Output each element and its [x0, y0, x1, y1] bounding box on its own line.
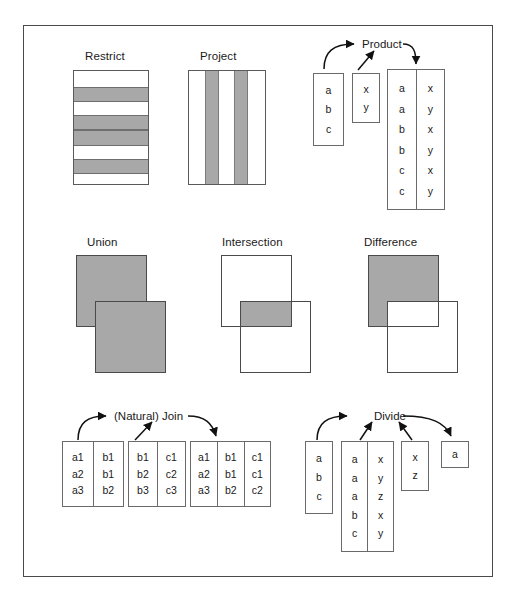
cell: b1	[137, 452, 149, 463]
restrict-caption: Restrict	[85, 50, 125, 62]
cell: b1	[102, 452, 114, 463]
intersection-caption: Intersection	[222, 236, 283, 248]
cell: a	[352, 491, 358, 502]
join-result-col-3: c1 c1 c2	[244, 442, 270, 506]
join-result-col-2: b1 b1 b2	[217, 442, 244, 506]
figure-canvas: Restrict Project Product a b c x y a a b…	[0, 0, 517, 604]
cell: c	[316, 491, 321, 502]
cell: b2	[137, 469, 149, 480]
cell: a1	[72, 452, 84, 463]
join-operand-right: b1 b2 b3 c1 c2 c3	[128, 441, 186, 507]
cell: a2	[198, 469, 210, 480]
cell: b	[316, 472, 322, 483]
restrict-band-shaded	[74, 159, 148, 174]
restrict-band-shaded	[74, 115, 148, 130]
cell: a1	[198, 452, 210, 463]
cell: a	[316, 453, 322, 464]
divide-right-col-1: x z	[402, 442, 428, 490]
divide-middle-col-1: a a a b c	[342, 442, 367, 551]
cell: c	[352, 528, 357, 539]
cell: x	[378, 454, 383, 465]
cell: b	[399, 145, 405, 156]
cell: a3	[198, 485, 210, 496]
project-diagram	[188, 70, 266, 185]
cell: b1	[102, 469, 114, 480]
product-right-col-1: x y	[353, 74, 379, 122]
product-operand-right: x y	[352, 73, 380, 123]
cell: y	[378, 528, 383, 539]
cell: a	[352, 473, 358, 484]
cell: b2	[225, 485, 237, 496]
cell: x	[428, 83, 433, 94]
difference-caption: Difference	[364, 236, 417, 248]
product-result: a a b b c c x y x y x y	[387, 69, 445, 210]
cell: c1	[166, 452, 177, 463]
cell: y	[363, 102, 368, 113]
divide-result: a	[441, 441, 469, 468]
cell: y	[428, 145, 433, 156]
project-stripe-shaded	[205, 71, 219, 184]
cell: b2	[102, 485, 114, 496]
cell: b	[399, 124, 405, 135]
intersection-rect-b-edge	[240, 301, 311, 373]
project-stripe-shaded	[234, 71, 248, 184]
cell: c2	[166, 469, 177, 480]
join-label: (Natural) Join	[114, 410, 183, 422]
divide-result-col-1: a	[442, 442, 468, 467]
join-result-col-1: a1 a2 a3	[191, 442, 217, 506]
divide-operand-left: a b c	[305, 441, 333, 514]
cell: a3	[72, 485, 84, 496]
join-right-col-1: b1 b2 b3	[129, 442, 157, 506]
cell: a	[399, 83, 405, 94]
project-caption: Project	[200, 50, 237, 62]
cell: x	[363, 84, 368, 95]
cell: x	[378, 510, 383, 521]
restrict-band-shaded	[74, 130, 148, 146]
cell: a	[326, 85, 332, 96]
divide-operand-middle: a a a b c x y z x y	[341, 441, 394, 552]
difference-rect-a-edge	[368, 255, 439, 327]
cell: c	[399, 186, 404, 197]
cell: c2	[252, 485, 263, 496]
product-result-col-2: x y x y x y	[416, 70, 444, 209]
product-result-col-1: a a b b c c	[388, 70, 416, 209]
cell: x	[412, 452, 417, 463]
cell: y	[428, 104, 433, 115]
cell: c	[326, 124, 331, 135]
join-right-col-2: c1 c2 c3	[157, 442, 185, 506]
divide-operand-right: x z	[401, 441, 429, 491]
cell: y	[428, 186, 433, 197]
cell: a	[352, 454, 358, 465]
restrict-diagram	[73, 70, 149, 185]
cell: z	[378, 491, 383, 502]
union-rect-b	[95, 301, 166, 373]
cell: b1	[225, 469, 237, 480]
divide-left-col-1: a b c	[306, 442, 332, 513]
product-operand-left: a b c	[313, 73, 344, 146]
cell: a2	[72, 469, 84, 480]
cell: x	[428, 165, 433, 176]
cell: c1	[252, 452, 263, 463]
cell: b1	[225, 452, 237, 463]
cell: b	[352, 510, 358, 521]
join-result: a1 a2 a3 b1 b1 b2 c1 c1 c2	[190, 441, 271, 507]
cell: b3	[137, 485, 149, 496]
cell: c	[399, 165, 404, 176]
cell: x	[428, 124, 433, 135]
cell: c1	[252, 469, 263, 480]
product-label: Product	[362, 38, 402, 50]
restrict-band-shaded	[74, 87, 148, 102]
union-caption: Union	[87, 236, 118, 248]
divide-label: Divide	[374, 410, 406, 422]
join-operand-left: a1 a2 a3 b1 b1 b2	[62, 441, 124, 507]
cell: b	[326, 104, 332, 115]
join-left-col-1: a1 a2 a3	[63, 442, 93, 506]
divide-middle-col-2: x y z x y	[367, 442, 393, 551]
product-left-col-1: a b c	[314, 74, 343, 145]
cell: c3	[166, 485, 177, 496]
join-left-col-2: b1 b1 b2	[93, 442, 124, 506]
cell: y	[378, 473, 383, 484]
cell: a	[452, 449, 458, 460]
cell: a	[399, 104, 405, 115]
cell: z	[412, 470, 417, 481]
